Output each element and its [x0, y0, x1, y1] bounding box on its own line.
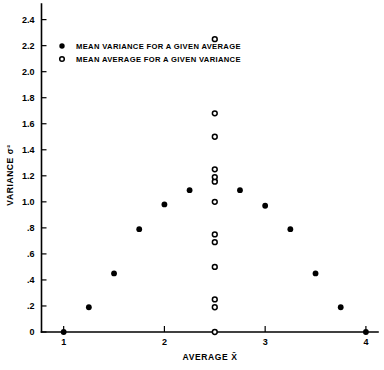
y-tick-label: 1.2 [22, 171, 35, 181]
x-axis-title: AVERAGE X̄ [183, 352, 238, 362]
y-tick-label: .6 [27, 249, 35, 259]
legend-marker-filled-circle [59, 43, 64, 48]
y-tick-label: 1.4 [22, 145, 35, 155]
data-point-open-circle [212, 232, 217, 237]
x-tick-label: 2 [162, 337, 167, 347]
data-point-open-circle [212, 297, 217, 302]
y-tick-label: 1.8 [22, 93, 35, 103]
data-point-filled-circle [287, 226, 293, 232]
data-point-filled-circle [162, 202, 168, 208]
data-point-filled-circle [237, 187, 243, 193]
x-axis-tick-labels: 1234 [61, 337, 368, 347]
data-series-mean-average [212, 37, 217, 335]
y-tick-label: 0 [29, 327, 34, 337]
chart-legend: MEAN VARIANCE FOR A GIVEN AVERAGE MEAN A… [59, 42, 241, 64]
data-point-filled-circle [136, 226, 142, 232]
y-tick-label: .2 [27, 301, 35, 311]
y-axis: 0.2.4.6.81.01.21.41.61.82.02.22.4 VARIAN… [5, 4, 47, 337]
y-tick-label: 2.2 [22, 41, 35, 51]
data-point-open-circle [212, 175, 217, 180]
data-point-open-circle [212, 199, 217, 204]
y-axis-tick-labels: 0.2.4.6.81.01.21.41.61.82.02.22.4 [22, 15, 35, 337]
legend-marker-open-circle [60, 57, 65, 62]
y-tick-label: .4 [27, 275, 35, 285]
legend-label-mean-average: MEAN AVERAGE FOR A GIVEN VARIANCE [76, 55, 241, 64]
x-axis: 1234 AVERAGE X̄ [42, 326, 379, 362]
legend-label-mean-variance: MEAN VARIANCE FOR A GIVEN AVERAGE [76, 42, 241, 51]
y-tick-label: 1.6 [22, 119, 35, 129]
data-point-filled-circle [86, 304, 92, 310]
data-point-open-circle [212, 134, 217, 139]
plot-canvas: 0.2.4.6.81.01.21.41.61.82.02.22.4 VARIAN… [0, 0, 384, 370]
data-point-open-circle [212, 330, 217, 335]
data-point-filled-circle [61, 329, 67, 335]
y-tick-label: 2.0 [22, 67, 35, 77]
data-point-open-circle [212, 305, 217, 310]
y-tick-label: 2.4 [22, 15, 35, 25]
data-point-filled-circle [338, 304, 344, 310]
y-tick-label: .8 [27, 223, 35, 233]
data-point-filled-circle [313, 271, 319, 277]
x-tick-label: 1 [61, 337, 66, 347]
data-point-open-circle [212, 240, 217, 245]
y-axis-title: VARIANCE σ² [5, 144, 15, 205]
data-point-filled-circle [262, 203, 268, 209]
x-tick-label: 3 [263, 337, 268, 347]
data-point-open-circle [212, 37, 217, 42]
data-point-open-circle [212, 167, 217, 172]
x-tick-label: 4 [363, 337, 368, 347]
scatter-plot-figure: 0.2.4.6.81.01.21.41.61.82.02.22.4 VARIAN… [0, 0, 384, 370]
data-point-filled-circle [363, 329, 369, 335]
y-tick-label: 1.0 [22, 197, 35, 207]
data-point-filled-circle [187, 187, 193, 193]
data-point-open-circle [212, 111, 217, 116]
data-point-open-circle [212, 265, 217, 270]
data-point-filled-circle [111, 271, 117, 277]
